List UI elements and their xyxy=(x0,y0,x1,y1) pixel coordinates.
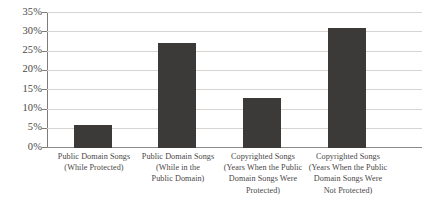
category-label-3-line-3: Not Protected) xyxy=(298,185,398,196)
y-tick-label-15: 15% xyxy=(0,84,42,95)
bar-copyrighted-songs-years-protected xyxy=(243,98,281,149)
category-label-3: Copyrighted Songs (Years When the Public… xyxy=(298,151,398,196)
x-axis-category-labels: Public Domain Songs (While Protected) Pu… xyxy=(47,151,431,212)
y-axis-labels: 35% 30% 25% 20% 15% 10% 5% 0% xyxy=(0,0,42,212)
plot-area xyxy=(47,12,422,148)
bar-copyrighted-songs-years-not-protected xyxy=(328,28,366,148)
y-tick-label-25: 25% xyxy=(0,45,42,56)
y-tick-label-30: 30% xyxy=(0,26,42,37)
y-tick-label-35: 35% xyxy=(0,7,42,18)
y-tick-label-20: 20% xyxy=(0,64,42,75)
y-tick-label-5: 5% xyxy=(0,122,42,133)
bar-public-domain-songs-while-in-public-domain xyxy=(158,43,196,148)
y-tick-label-10: 10% xyxy=(0,103,42,114)
category-label-3-line-0: Copyrighted Songs xyxy=(298,151,398,162)
bar-chart: 35% 30% 25% 20% 15% 10% 5% 0% Public Dom… xyxy=(0,0,431,212)
y-tick-label-0: 0% xyxy=(0,142,42,153)
category-label-3-line-2: Domain Songs Were xyxy=(298,173,398,184)
bar-public-domain-songs-while-protected xyxy=(74,125,112,148)
gridline-35 xyxy=(47,12,422,13)
category-label-3-line-1: (Years When the Public xyxy=(298,162,398,173)
